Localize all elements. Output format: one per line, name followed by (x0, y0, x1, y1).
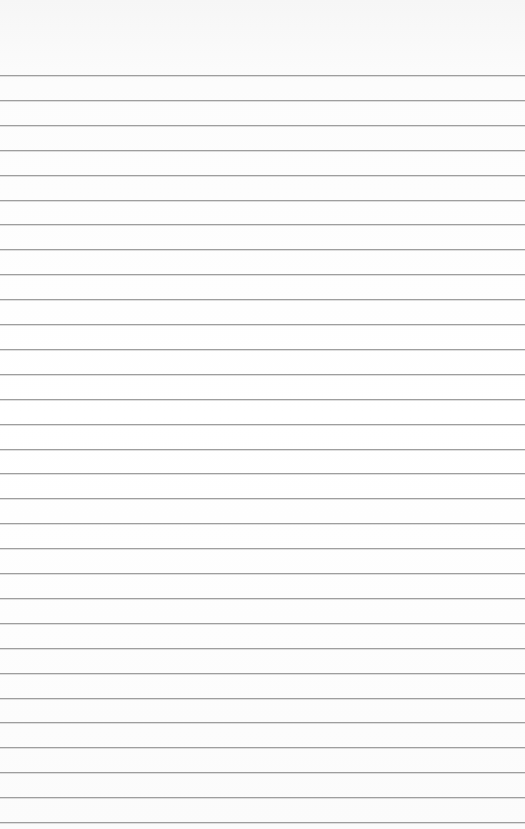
ruled-line (0, 698, 525, 699)
ruled-line (0, 224, 525, 225)
ruled-line (0, 399, 525, 400)
ruled-line (0, 573, 525, 574)
ruled-line (0, 747, 525, 748)
ruled-line (0, 274, 525, 275)
ruled-line (0, 374, 525, 375)
ruled-line (0, 598, 525, 599)
ruled-line (0, 150, 525, 151)
ruled-line (0, 722, 525, 723)
ruled-line (0, 772, 525, 773)
lined-paper-sheet (0, 0, 525, 829)
ruled-line (0, 249, 525, 250)
ruled-line (0, 548, 525, 549)
ruled-line (0, 797, 525, 798)
ruled-line (0, 648, 525, 649)
ruled-line (0, 473, 525, 474)
ruled-line (0, 200, 525, 201)
ruled-line (0, 324, 525, 325)
ruled-line (0, 75, 525, 76)
ruled-line (0, 424, 525, 425)
ruled-line (0, 623, 525, 624)
ruled-line (0, 673, 525, 674)
ruled-line (0, 523, 525, 524)
ruled-line (0, 100, 525, 101)
ruled-line (0, 449, 525, 450)
ruled-line (0, 299, 525, 300)
ruled-line (0, 175, 525, 176)
ruled-line (0, 498, 525, 499)
ruled-line (0, 125, 525, 126)
ruled-line (0, 349, 525, 350)
ruled-line (0, 822, 525, 823)
